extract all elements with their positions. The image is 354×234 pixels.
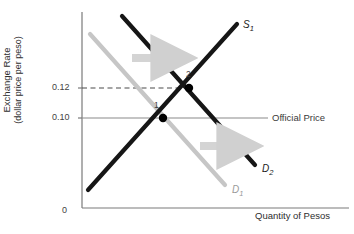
demand-curve-d1-label: D1: [232, 185, 243, 198]
point-2-label: 2: [186, 70, 191, 79]
point-1-label: 1: [154, 101, 159, 110]
y-axis-title-line2: (dollar price per peso): [13, 15, 23, 145]
point-1-marker: [159, 114, 167, 122]
demand-curve-d1-label-sub: 1: [239, 189, 243, 198]
supply-curve-s1: [88, 24, 237, 190]
exchange-rate-supply-demand-figure: Exchange Rate (dollar price per peso) 0.…: [0, 0, 354, 234]
supply-curve-s1-label-text: S: [243, 19, 250, 30]
demand-curve-d2-label: D2: [262, 164, 273, 177]
y-tick-label-010: 0.10: [52, 113, 70, 122]
demand-curve-d2-label-sub: 2: [269, 168, 273, 177]
point-2-marker: [185, 84, 193, 92]
supply-curve-s1-label: S1: [243, 20, 254, 33]
official-price-label: Official Price: [272, 113, 325, 123]
y-axis-title: Exchange Rate (dollar price per peso): [1, 15, 41, 145]
x-axis-title: Quantity of Pesos: [255, 211, 330, 221]
y-axis-title-line1: Exchange Rate: [1, 15, 12, 145]
supply-curve-s1-label-sub: 1: [250, 24, 254, 33]
y-tick-label-012: 0.12: [52, 83, 70, 92]
origin-label: 0: [62, 206, 67, 215]
